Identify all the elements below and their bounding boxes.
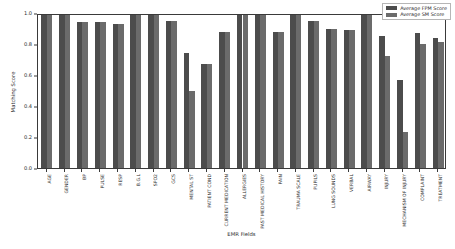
bar-sm bbox=[314, 21, 320, 168]
legend-item-fpm: Average FPM Score bbox=[386, 6, 447, 11]
bar-group bbox=[219, 15, 230, 168]
x-tick-label: PUPILS bbox=[314, 174, 319, 190]
bar-group bbox=[237, 15, 248, 168]
x-tick-label: PATIENT COND bbox=[208, 174, 213, 208]
bar-group bbox=[361, 15, 372, 168]
x-tick-mark bbox=[277, 169, 278, 172]
x-tick-label: AGE bbox=[48, 174, 53, 184]
bar-sm bbox=[118, 24, 124, 168]
bar-group bbox=[308, 15, 319, 168]
y-tick-label: 0.8 bbox=[24, 42, 32, 47]
y-tick-label: 0.0 bbox=[24, 166, 32, 171]
legend-label-sm: Average SM Score bbox=[400, 12, 444, 17]
bar-sm bbox=[403, 132, 409, 168]
x-tick-mark bbox=[170, 169, 171, 172]
x-tick-label: MECHANISM OF INJURY bbox=[403, 174, 408, 227]
x-tick-mark bbox=[81, 169, 82, 172]
x-tick-mark bbox=[437, 169, 438, 172]
bar-sm bbox=[207, 64, 213, 168]
x-tick-mark bbox=[135, 169, 136, 172]
x-tick-mark bbox=[206, 169, 207, 172]
x-tick-mark bbox=[295, 169, 296, 172]
y-tick-label: 0.4 bbox=[24, 104, 32, 109]
x-tick-mark bbox=[366, 169, 367, 172]
bar-group bbox=[255, 15, 266, 168]
bar-group bbox=[344, 15, 355, 168]
x-tick-label: BP bbox=[83, 174, 88, 180]
x-tick-label: PAST MEDICAL HISTORY bbox=[261, 174, 266, 229]
x-tick-mark bbox=[259, 169, 260, 172]
bar-sm bbox=[100, 22, 106, 168]
plot-area bbox=[37, 14, 446, 169]
bar-group bbox=[273, 15, 284, 168]
legend-item-sm: Average SM Score bbox=[386, 12, 447, 17]
x-tick-label: RESP bbox=[119, 174, 124, 186]
x-tick-mark bbox=[64, 169, 65, 172]
bar-sm bbox=[225, 32, 231, 168]
bar-group bbox=[184, 15, 195, 168]
bar-group bbox=[59, 15, 70, 168]
legend-label-fpm: Average FPM Score bbox=[400, 6, 447, 11]
bar-sm bbox=[278, 32, 284, 168]
bar-sm bbox=[296, 14, 302, 168]
x-tick-label: INJURY bbox=[385, 174, 390, 189]
x-tick-mark bbox=[153, 169, 154, 172]
chart-legend: Average FPM Score Average SM Score bbox=[382, 3, 451, 20]
bar-group bbox=[77, 15, 88, 168]
bar-group bbox=[113, 15, 124, 168]
x-tick-label: TRAUMA SCALE bbox=[297, 174, 302, 210]
x-tick-label: B.G.L bbox=[137, 174, 142, 186]
x-tick-mark bbox=[188, 169, 189, 172]
bar-sm bbox=[420, 44, 426, 168]
bar-sm bbox=[189, 91, 195, 169]
x-tick-mark bbox=[242, 169, 243, 172]
bar-sm bbox=[171, 21, 177, 168]
x-axis-title: EMR Fields bbox=[37, 232, 446, 237]
x-axis: AGEGENDERBPPULSERESPB.G.LSPO2GCSMENTAL S… bbox=[37, 169, 446, 231]
x-tick-label: LUNG SOUNDS bbox=[332, 174, 337, 208]
x-tick-label: SPO2 bbox=[154, 174, 159, 186]
x-tick-mark bbox=[419, 169, 420, 172]
bar-sm bbox=[349, 30, 355, 168]
bar-sm bbox=[82, 22, 88, 168]
bar-group bbox=[95, 15, 106, 168]
bar-group bbox=[379, 15, 390, 168]
bar-group bbox=[166, 15, 177, 168]
x-tick-label: AIRWAY bbox=[368, 174, 373, 191]
bar-sm bbox=[385, 56, 391, 168]
bar-sm bbox=[243, 14, 249, 168]
bars-layer bbox=[38, 15, 445, 168]
x-tick-mark bbox=[330, 169, 331, 172]
x-tick-label: PULSE bbox=[101, 174, 106, 189]
y-tick-label: 0.6 bbox=[24, 73, 32, 78]
bar-sm bbox=[331, 29, 337, 169]
x-tick-label: PAIN bbox=[279, 174, 284, 184]
bar-sm bbox=[65, 14, 71, 168]
bar-sm bbox=[438, 42, 444, 168]
bar-group bbox=[290, 15, 301, 168]
y-tick-label: 1.0 bbox=[24, 11, 32, 16]
x-tick-mark bbox=[46, 169, 47, 172]
x-tick-label: MENTAL ST bbox=[190, 174, 195, 200]
y-tick-label: 0.2 bbox=[24, 135, 32, 140]
bar-group bbox=[433, 15, 444, 168]
bar-sm bbox=[154, 14, 160, 168]
legend-swatch-fpm bbox=[386, 6, 397, 10]
y-axis: Matching Score 0.00.20.40.60.81.0 bbox=[0, 14, 37, 169]
x-tick-mark bbox=[99, 169, 100, 172]
bar-sm bbox=[136, 14, 142, 168]
bar-sm bbox=[367, 14, 373, 168]
bar-group bbox=[41, 15, 52, 168]
x-tick-mark bbox=[313, 169, 314, 172]
x-tick-label: VERBAL bbox=[350, 174, 355, 192]
bar-group bbox=[415, 15, 426, 168]
bar-sm bbox=[47, 14, 53, 168]
x-tick-label: GENDER bbox=[65, 174, 70, 194]
bar-chart-figure: Matching Score 0.00.20.40.60.81.0 AGEGEN… bbox=[0, 0, 455, 249]
bar-sm bbox=[260, 14, 266, 168]
bar-group bbox=[397, 15, 408, 168]
y-axis-title: Matching Score bbox=[11, 52, 16, 132]
x-tick-label: CURRENT MEDICATION bbox=[225, 174, 230, 227]
x-tick-mark bbox=[384, 169, 385, 172]
bar-group bbox=[326, 15, 337, 168]
